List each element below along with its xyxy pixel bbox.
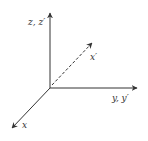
x-axis-label: x: [22, 120, 27, 130]
x-prime-axis-label: x′: [90, 52, 97, 62]
y-axis-label: y, y′: [111, 93, 129, 103]
z-axis-label: z, z′: [27, 17, 45, 27]
x-prime-axis: [52, 43, 92, 85]
coordinate-axes-diagram: z, z′ y, y′ x x′: [0, 0, 148, 141]
x-axis: [12, 88, 50, 128]
